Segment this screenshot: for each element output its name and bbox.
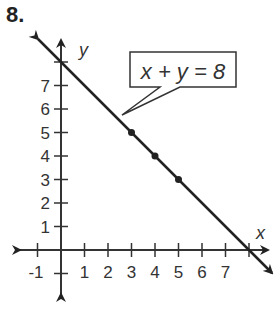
svg-text:5: 5 xyxy=(41,124,50,143)
equation-label: x + y = 8 xyxy=(140,59,226,84)
y-tick-labels: 1 2 3 4 5 6 7 xyxy=(41,77,50,237)
svg-text:2: 2 xyxy=(41,194,50,213)
x-tick-labels: -1 1 2 3 4 5 6 7 xyxy=(28,263,230,282)
svg-text:3: 3 xyxy=(41,171,50,190)
svg-text:7: 7 xyxy=(221,263,230,282)
svg-text:3: 3 xyxy=(127,263,136,282)
x-axis-label: x xyxy=(255,223,266,243)
svg-text:2: 2 xyxy=(103,263,112,282)
svg-text:4: 4 xyxy=(41,147,50,166)
svg-text:7: 7 xyxy=(41,77,50,96)
svg-text:4: 4 xyxy=(150,263,159,282)
svg-text:5: 5 xyxy=(174,263,183,282)
svg-text:6: 6 xyxy=(41,100,50,119)
svg-text:6: 6 xyxy=(197,263,206,282)
coordinate-graph: -1 1 2 3 4 5 6 7 1 2 3 4 5 6 7 x y x + y… xyxy=(0,0,277,309)
svg-text:-1: -1 xyxy=(28,263,43,282)
svg-text:1: 1 xyxy=(80,263,89,282)
svg-text:1: 1 xyxy=(41,218,50,237)
y-axis-label: y xyxy=(77,40,89,60)
